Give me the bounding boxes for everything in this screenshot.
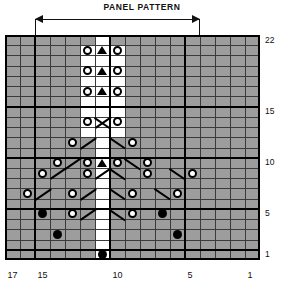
bobble-icon [173,230,182,239]
grid-cell [50,55,65,66]
grid-cell [50,219,65,230]
grid-cell [5,137,20,148]
grid-cell [140,229,155,240]
grid-cell [110,55,125,66]
grid-cell [80,127,95,138]
grid-cell [5,107,20,118]
grid-cell [140,76,155,87]
grid-cell [230,158,245,169]
grid-cell [35,107,50,118]
yarn-over-icon [173,189,182,198]
chart-grid[interactable] [5,35,260,260]
grid-cell [200,137,215,148]
yarn-over-icon [113,46,122,55]
grid-cell [200,158,215,169]
grid-cell [5,127,20,138]
grid-cell [140,107,155,118]
gridline-horizontal [5,76,260,77]
grid-cell [140,55,155,66]
grid-cell [50,250,65,261]
grid-cell [245,66,260,77]
grid-cell [5,229,20,240]
grid-cell [155,127,170,138]
grid-cell [110,127,125,138]
grid-cell [5,178,20,189]
grid-cell [140,219,155,230]
grid-cell [215,86,230,97]
grid-cell [185,66,200,77]
grid-cell [245,127,260,138]
grid-cell [155,229,170,240]
grid-cell [155,250,170,261]
double-decrease-icon [97,159,107,167]
grid-cell [50,107,65,118]
grid-cell [245,250,260,261]
grid-cell [80,107,95,118]
grid-cell [230,188,245,199]
grid-cell [50,178,65,189]
grid-cell [35,45,50,56]
grid-cell [200,55,215,66]
column-label: 17 [8,270,18,280]
grid-cell [35,117,50,128]
gridline-horizontal [5,148,260,149]
grid-cell [80,76,95,87]
column-label: 15 [38,270,48,280]
grid-cell [215,219,230,230]
grid-cell [230,209,245,220]
grid-cell [5,35,20,46]
grid-cell [35,137,50,148]
yarn-over-icon [113,87,122,96]
grid-cell [155,117,170,128]
column-label: 5 [188,270,193,280]
grid-cell [65,250,80,261]
grid-cell [200,178,215,189]
grid-cell [200,117,215,128]
grid-cell [200,188,215,199]
grid-cell [140,45,155,56]
grid-cell [155,55,170,66]
grid-cell [245,117,260,128]
grid-cell [230,76,245,87]
grid-cell [245,35,260,46]
grid-cell [245,168,260,179]
grid-cell [125,219,140,230]
grid-cell [245,229,260,240]
grid-cell [185,35,200,46]
grid-cell [215,35,230,46]
grid-cell [230,137,245,148]
arrow-left-icon [35,15,43,23]
grid-cell [5,117,20,128]
grid-cell [215,209,230,220]
yarn-over-icon [68,138,77,147]
grid-cell [230,117,245,128]
grid-cell [215,76,230,87]
grid-cell [155,219,170,230]
grid-cell [185,76,200,87]
grid-cell [245,178,260,189]
gridline-horizontal [5,229,260,230]
gridline-horizontal [5,96,260,97]
grid-cell [125,76,140,87]
grid-cell [125,107,140,118]
grid-cell [185,158,200,169]
gridline-horizontal [5,219,260,220]
grid-cell [80,55,95,66]
grid-cell [80,250,95,261]
grid-cell [35,178,50,189]
grid-cell [215,188,230,199]
grid-cell [215,137,230,148]
knitting-chart-page: PANEL PATTERN 22151051 17151051 [0,0,284,292]
yarn-over-icon [128,189,137,198]
grid-cell [35,86,50,97]
grid-cell [65,86,80,97]
gridline-horizontal [5,55,260,56]
double-decrease-icon [97,46,107,54]
grid-cell [140,127,155,138]
grid-cell [155,107,170,118]
grid-cell [185,107,200,118]
gridline-horizontal [5,86,260,87]
grid-cell [200,45,215,56]
grid-cell [185,45,200,56]
grid-cell [245,158,260,169]
